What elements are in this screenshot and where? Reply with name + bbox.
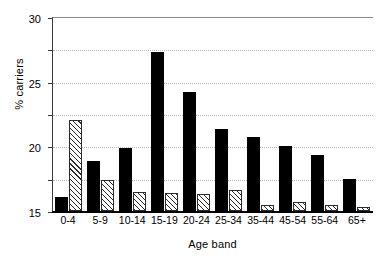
bar-hatched-20-24 <box>197 194 210 211</box>
bar-solid-5-9 <box>87 161 100 211</box>
x-axis-tick-label: 55-64 <box>309 214 341 226</box>
bar-hatched-15-19 <box>165 193 178 211</box>
bar-group <box>116 17 148 211</box>
x-axis-tick-label: 5-9 <box>84 214 116 226</box>
bar-hatched-35-44 <box>261 205 274 211</box>
bar-solid-65+ <box>343 179 356 211</box>
bar-group <box>309 17 341 211</box>
x-axis-line <box>52 211 373 213</box>
bar-group <box>212 17 244 211</box>
chart-figure: % carriers 051015202530 0-45-910-1415-19… <box>0 0 385 263</box>
bar-series-container <box>52 17 373 211</box>
x-axis-tick-label: 65+ <box>341 214 373 226</box>
bar-group <box>341 17 373 211</box>
bar-hatched-10-14 <box>133 192 146 211</box>
bar-group <box>277 17 309 211</box>
bar-group <box>180 17 212 211</box>
x-axis-tick-label: 20-24 <box>180 214 212 226</box>
y-axis-tick-label: 20 <box>29 142 41 154</box>
bar-solid-35-44 <box>247 137 260 211</box>
bar-solid-45-54 <box>279 146 292 211</box>
x-axis-tick-labels: 0-45-910-1415-1920-2425-3435-4445-5455-6… <box>52 214 373 226</box>
y-axis-tick-label: 15 <box>29 207 41 219</box>
bar-group <box>245 17 277 211</box>
bar-group <box>52 17 84 211</box>
bar-solid-55-64 <box>311 155 324 211</box>
x-axis-tick-label: 25-34 <box>212 214 244 226</box>
bar-solid-20-24 <box>183 92 196 211</box>
x-axis-tick-label: 35-44 <box>245 214 277 226</box>
x-axis-title: Age band <box>52 238 373 250</box>
bar-hatched-5-9 <box>101 180 114 211</box>
bar-group <box>84 17 116 211</box>
bar-hatched-25-34 <box>229 190 242 211</box>
x-axis-tick-label: 0-4 <box>52 214 84 226</box>
bar-solid-10-14 <box>119 148 132 211</box>
bar-hatched-65+ <box>357 207 370 211</box>
bar-hatched-45-54 <box>293 202 306 211</box>
y-axis-tick-label: 30 <box>29 13 41 25</box>
bar-solid-0-4 <box>55 197 68 211</box>
x-axis-tick-label: 45-54 <box>277 214 309 226</box>
bar-hatched-55-64 <box>325 205 338 211</box>
y-axis-tick-label: 25 <box>29 78 41 90</box>
bar-group <box>148 17 180 211</box>
x-axis-tick-label: 10-14 <box>116 214 148 226</box>
y-axis-title: % carriers <box>13 29 25 139</box>
x-axis-tick-label: 15-19 <box>148 214 180 226</box>
bar-solid-25-34 <box>215 129 228 211</box>
bar-solid-15-19 <box>151 52 164 211</box>
bar-hatched-0-4 <box>69 120 82 211</box>
